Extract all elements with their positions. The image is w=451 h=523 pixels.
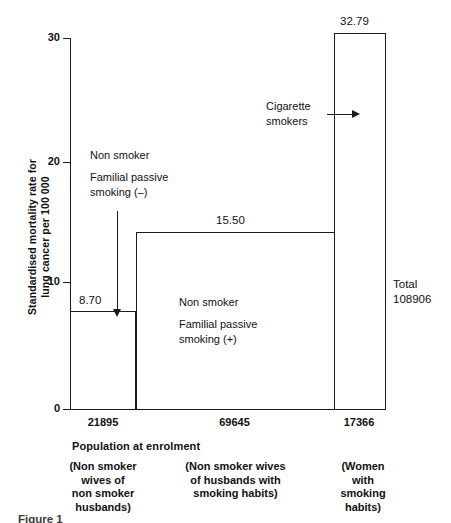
y-tick-label-30: 30 [34, 32, 60, 43]
total-note-line-1: Total [393, 277, 431, 292]
group-label-smoking-husbands: (Non smoker wives of husbands with smoki… [158, 460, 313, 501]
annotation-passive-positive-line-2: Familial passive [179, 317, 257, 332]
arrow-down-icon-passive-negative [117, 211, 118, 310]
group-label-3-line-2: with [326, 474, 400, 488]
y-axis-title-line-2: lung cancer per 100 000 [39, 112, 52, 362]
annotation-passive-smoking-negative: Non smoker Familial passive smoking (–) [90, 148, 168, 200]
y-tick-mark-30 [63, 38, 71, 39]
y-axis-title-line-1: Standardised mortality rate for [26, 112, 39, 362]
y-tick-label-30-wrap: 30 [30, 32, 60, 43]
y-tick-label-10-wrap: 10 [30, 276, 60, 287]
population-label-17366: 17366 [333, 416, 385, 428]
group-label-3-line-3: smoking [326, 487, 400, 501]
bar-value-label-15-50: 15.50 [216, 214, 245, 226]
bar-value-label-32-79: 32.79 [340, 15, 369, 27]
group-label-2-line-2: of husbands with [158, 474, 313, 488]
group-label-1-line-4: husbands) [38, 501, 168, 515]
annotation-passive-negative-line-3: smoking (–) [90, 185, 168, 200]
annotation-cigarette-smokers-line-2: smokers [266, 114, 311, 129]
x-axis-title: Population at enrolment [72, 440, 200, 452]
population-label-21895: 21895 [70, 416, 136, 428]
annotation-cigarette-smokers: Cigarette smokers [266, 99, 311, 129]
population-label-69645: 69645 [135, 416, 334, 428]
group-label-1-line-3: non smoker [38, 487, 168, 501]
figure-caption: Figure 1 [18, 513, 63, 523]
group-label-1-line-2: wives of [38, 474, 168, 488]
group-label-3-line-1: (Women [326, 460, 400, 474]
figure-chart-container: Standardised mortality rate for lung can… [0, 0, 451, 523]
annotation-passive-positive-line-3: smoking (+) [179, 332, 257, 347]
y-tick-label-0: 0 [34, 403, 60, 414]
bar-non-smoker-husbands [70, 311, 136, 410]
total-note-line-2: 108906 [393, 292, 431, 307]
y-tick-label-10: 10 [34, 276, 60, 287]
y-axis-title: Standardised mortality rate for lung can… [26, 112, 52, 362]
y-tick-label-0-wrap: 0 [30, 403, 60, 414]
annotation-passive-negative-line-2: Familial passive [90, 170, 168, 185]
y-tick-mark-20 [63, 162, 71, 163]
group-label-2-line-1: (Non smoker wives [158, 460, 313, 474]
y-tick-mark-10 [63, 282, 71, 283]
bar-value-label-8-70: 8.70 [79, 294, 101, 306]
annotation-passive-positive-line-1: Non smoker [179, 295, 257, 310]
group-label-non-smoker-husbands: (Non smoker wives of non smoker husbands… [38, 460, 168, 514]
annotation-cigarette-smokers-line-1: Cigarette [266, 99, 311, 114]
group-label-1-line-1: (Non smoker [38, 460, 168, 474]
group-label-women-smokers: (Women with smoking habits) [326, 460, 400, 514]
y-tick-label-20: 20 [34, 156, 60, 167]
annotation-passive-smoking-positive: Non smoker Familial passive smoking (+) [179, 295, 257, 347]
total-population-note: Total 108906 [393, 277, 431, 307]
annotation-passive-negative-line-1: Non smoker [90, 148, 168, 163]
bar-women-smokers [334, 33, 386, 410]
group-label-3-line-4: habits) [326, 501, 400, 515]
group-label-2-line-3: smoking habits) [158, 487, 313, 501]
arrow-right-icon-cigarette-smokers [327, 114, 353, 115]
y-tick-label-20-wrap: 20 [30, 156, 60, 167]
